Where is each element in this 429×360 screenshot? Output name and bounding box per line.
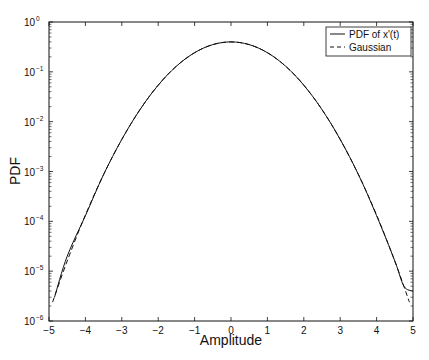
pdf-chart: −5−4−3−2−1012345 10010−110−210−310−410−5… (0, 0, 429, 360)
legend-item-pdf: PDF of x'(t) (349, 29, 399, 40)
x-axis-label: Amplitude (200, 332, 262, 348)
plot-frame (49, 22, 413, 321)
y-tick-label: 10 (24, 67, 36, 78)
y-tick-exponent: −4 (36, 214, 44, 221)
y-tick-label: 10 (24, 117, 36, 128)
y-tick-exponent: −6 (36, 314, 44, 321)
y-tick-labels: 10010−110−210−310−410−510−6 (24, 15, 44, 327)
y-tick-label: 10 (24, 266, 36, 277)
minor-ticks (49, 24, 413, 306)
x-tick-label: −2 (152, 325, 164, 336)
y-tick-exponent: 0 (36, 15, 40, 22)
y-tick-label: 10 (24, 17, 36, 28)
x-tick-label: −5 (43, 325, 55, 336)
pdf-curve (55, 42, 414, 297)
x-tick-label: 1 (265, 325, 271, 336)
major-ticks (49, 22, 413, 321)
x-tick-label: 5 (410, 325, 416, 336)
y-tick-exponent: −3 (36, 165, 44, 172)
y-tick-label: 10 (24, 316, 36, 327)
y-tick-exponent: −1 (36, 65, 44, 72)
x-tick-label: 4 (374, 325, 380, 336)
y-tick-exponent: −5 (36, 264, 44, 271)
gaussian-curve (53, 42, 410, 302)
legend: PDF of x'(t) Gaussian (326, 27, 411, 56)
x-tick-label: 3 (337, 325, 343, 336)
y-tick-label: 10 (24, 167, 36, 178)
y-axis-label: PDF (7, 157, 23, 185)
y-tick-exponent: −2 (36, 115, 44, 122)
series-lines (53, 42, 413, 302)
legend-item-gaussian: Gaussian (349, 42, 391, 53)
y-tick-label: 10 (24, 216, 36, 227)
x-tick-label: −3 (116, 325, 128, 336)
x-tick-label: 2 (301, 325, 307, 336)
x-tick-label: −4 (80, 325, 92, 336)
